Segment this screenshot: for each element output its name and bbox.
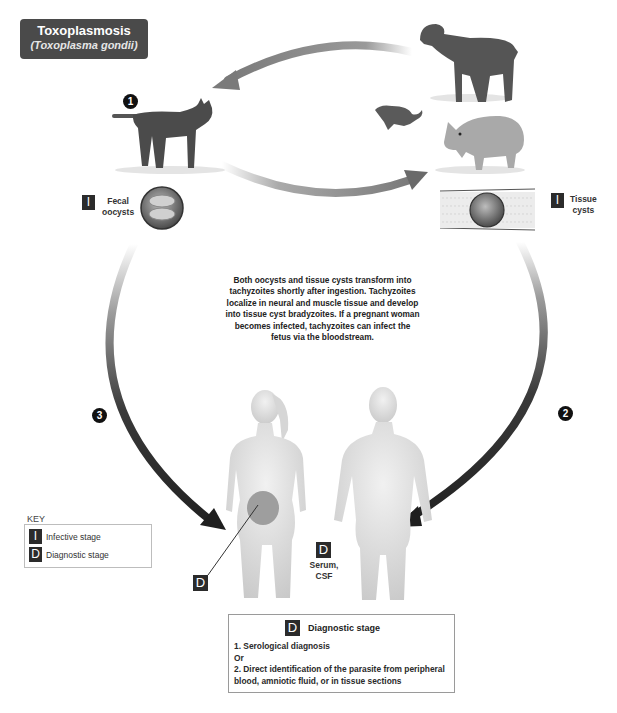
infective-badge-oocysts: I [82, 195, 95, 210]
diagnostic-methods: 1. Serological diagnosis Or 2. Direct id… [234, 641, 452, 687]
sheep-illustration [420, 24, 518, 102]
serum-csf-label: Serum, CSF [306, 560, 342, 582]
key-item-infective: I Infective stage [29, 529, 101, 544]
arrow-left-oocysts [110, 244, 226, 530]
title-box: Toxoplasmosis (Toxoplasma gondii) [20, 19, 148, 59]
diagnostic-heading: Diagnostic stage [308, 623, 380, 633]
rodent-illustration [375, 106, 422, 131]
page-subtitle: (Toxoplasma gondii) [20, 38, 148, 52]
key-legend: I Infective stage D Diagnostic stage [24, 524, 152, 568]
pig-illustration [435, 116, 525, 174]
man-illustration [334, 387, 432, 600]
tissue-cyst-illustration [440, 189, 535, 230]
tissue-cysts-label: Tissue cysts [570, 194, 597, 216]
diagnostic-badge: D [29, 547, 42, 562]
fecal-oocysts-label: Fecal oocysts [102, 196, 134, 218]
arrow-middle [222, 165, 428, 193]
diagnostic-heading-row: D Diagnostic stage [285, 620, 380, 636]
page-title: Toxoplasmosis [20, 23, 148, 38]
diagnostic-box-badge: D [285, 620, 300, 636]
step-1-marker: 1 [123, 94, 138, 109]
infective-badge-tissue: I [551, 193, 564, 208]
woman-illustration [208, 390, 306, 598]
serum-diagnostic-badge: D [316, 542, 331, 558]
fetus-diagnostic-badge: D [193, 575, 208, 591]
step-3-marker: 3 [92, 408, 107, 423]
lifecycle-graphics [0, 0, 617, 713]
arrow-top [212, 45, 412, 90]
oocyst-illustration [141, 187, 183, 229]
cat-illustration [112, 98, 225, 174]
lifecycle-description: Both oocysts and tissue cysts transform … [225, 275, 420, 343]
infective-badge: I [29, 529, 42, 544]
diagnostic-stage-box: D Diagnostic stage 1. Serological diagno… [228, 614, 455, 693]
step-2-marker: 2 [558, 406, 573, 421]
key-title: KEY [27, 514, 45, 524]
key-item-diagnostic: D Diagnostic stage [29, 547, 109, 562]
